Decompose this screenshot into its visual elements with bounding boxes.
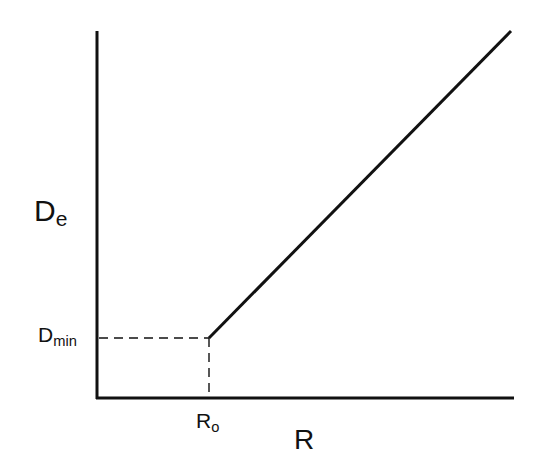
dmin-main: D xyxy=(38,323,53,346)
de-vs-r-line xyxy=(209,31,511,338)
r0-sub: o xyxy=(211,419,219,435)
y-axis-label: De xyxy=(34,196,67,229)
r0-tick-label: Ro xyxy=(196,410,219,434)
y-axis-label-main: D xyxy=(34,194,56,227)
diagram-canvas xyxy=(0,0,540,472)
dmin-sub: min xyxy=(53,333,77,349)
dmin-tick-label: Dmin xyxy=(38,324,77,348)
r0-main: R xyxy=(196,409,211,432)
x-axis-label: R xyxy=(294,426,314,454)
y-axis-label-sub: e xyxy=(56,207,68,230)
